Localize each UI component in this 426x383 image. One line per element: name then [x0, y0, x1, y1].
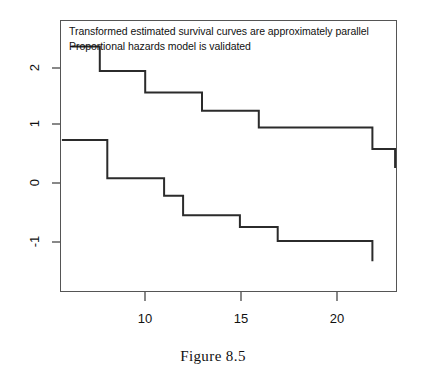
x-tick-label-10: 10: [130, 311, 160, 326]
y-tick-label-neg1: -1: [27, 232, 42, 252]
y-axis-ticks: [52, 68, 60, 242]
annotation-line-2: Proportional hazards model is validated: [69, 39, 387, 54]
y-tick-label-1: 1: [27, 114, 42, 134]
x-tick-label-20: 20: [322, 311, 352, 326]
annotation-line-1: Transformed estimated survival curves ar…: [69, 24, 387, 39]
figure-container: Transformed estimated survival curves ar…: [0, 0, 426, 383]
annotation-block: Transformed estimated survival curves ar…: [69, 24, 387, 54]
y-tick-label-0: 0: [27, 173, 42, 193]
y-tick-label-2: 2: [27, 58, 42, 78]
plot-frame: [60, 20, 397, 292]
x-tick-label-15: 15: [226, 311, 256, 326]
x-axis-ticks: [145, 292, 337, 301]
figure-caption: Figure 8.5: [0, 348, 426, 365]
